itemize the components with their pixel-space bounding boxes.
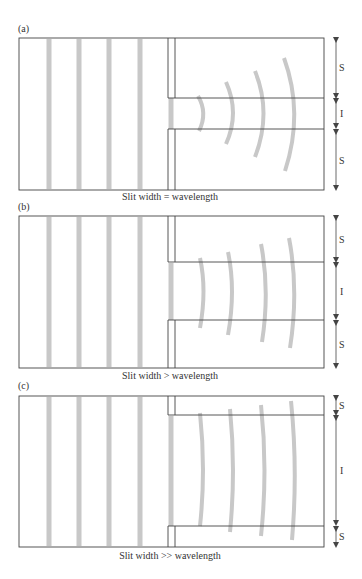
panel-label-b: (b) [18, 201, 30, 213]
diffracted-wavefronts [200, 238, 294, 348]
incident-wavefronts [49, 39, 171, 189]
dimension-label-shadow-top: S [339, 400, 345, 411]
diffracted-wavefronts [198, 58, 294, 171]
panel-c: (c) S I S Slit width >> w [18, 380, 345, 561]
dimension-label-illuminated: I [340, 286, 343, 297]
dimension-label-shadow-bottom: S [339, 155, 345, 166]
dimension-label-shadow-top: S [339, 234, 345, 245]
dimension-label-illuminated: I [340, 108, 343, 119]
panel-a: (a) [18, 23, 345, 202]
diffraction-diagram: (a) [0, 0, 362, 579]
caption-a: Slit width = wavelength [122, 191, 218, 202]
panel-label-c: (c) [18, 380, 29, 392]
caption-c: Slit width >> wavelength [119, 550, 221, 561]
dimension-label-shadow-top: S [339, 62, 345, 73]
incident-wavefronts [49, 397, 171, 546]
diffracted-wavefronts [200, 401, 295, 540]
incident-wavefronts [49, 217, 171, 367]
panel-label-a: (a) [18, 23, 29, 35]
dimension-label-shadow-bottom: S [339, 531, 345, 542]
dimension-label-illuminated: I [340, 465, 343, 476]
panel-b: (b) S I S Slit width > wa [18, 201, 345, 381]
dimension-label-shadow-bottom: S [339, 339, 345, 350]
caption-b: Slit width > wavelength [122, 370, 218, 381]
